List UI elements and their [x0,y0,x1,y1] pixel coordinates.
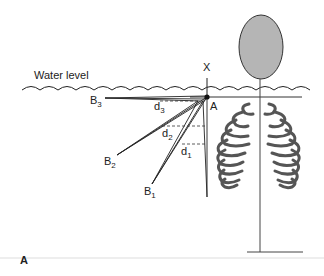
d2-label: d2 [162,127,173,142]
d1-label: d1 [181,145,192,160]
point-a-label: A [210,100,218,112]
head-ellipse [239,15,283,79]
water-level-label: Water level [34,69,89,81]
x-axis-label: X [203,61,211,73]
b3-label: B3 [90,94,102,109]
b2-label: B2 [104,155,116,170]
diagram-canvas: Water level X A B3 B2 B1 d3 d2 d1 A [0,0,324,276]
ribs-right [265,104,299,188]
ray-downward [203,97,207,197]
point-a-marker [204,94,209,99]
b1-label: B1 [144,185,156,200]
ribs-left [218,104,253,188]
water-surface-wave [22,87,310,91]
panel-label: A [20,254,28,266]
d3-label: d3 [154,100,165,115]
